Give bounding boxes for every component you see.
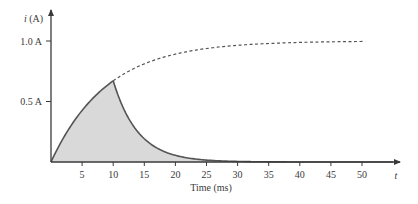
x-axis-end-label: t xyxy=(395,170,398,181)
shaded-area xyxy=(51,81,393,162)
y-tick-label: 0.5 A xyxy=(20,96,42,107)
x-tick-label: 15 xyxy=(139,169,149,180)
dashed-continuation-curve xyxy=(113,41,365,80)
x-tick-label: 5 xyxy=(80,169,85,180)
x-ticks: 5101520253035404550 xyxy=(80,162,367,180)
x-axis-title: Time (ms) xyxy=(190,182,232,194)
y-axis-unit: (A) xyxy=(27,13,43,25)
x-tick-label: 25 xyxy=(202,169,212,180)
shaded-region xyxy=(51,81,393,162)
x-tick-label: 30 xyxy=(233,169,243,180)
x-tick-label: 10 xyxy=(108,169,118,180)
y-axis-title: i (A) xyxy=(24,13,43,25)
y-ticks: 0.5 A1.0 A xyxy=(20,36,51,108)
x-tick-label: 40 xyxy=(295,169,305,180)
x-tick-label: 50 xyxy=(357,169,367,180)
chart: 5101520253035404550 0.5 A1.0 A i (A) Tim… xyxy=(0,0,418,204)
y-tick-label: 1.0 A xyxy=(20,36,42,47)
x-tick-label: 45 xyxy=(326,169,336,180)
x-tick-label: 35 xyxy=(264,169,274,180)
x-tick-label: 20 xyxy=(170,169,180,180)
